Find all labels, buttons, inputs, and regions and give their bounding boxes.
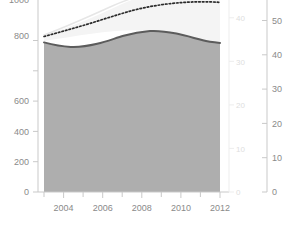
axis-left-label-800: 800	[14, 31, 29, 41]
axis-x-label-2006: 2006	[93, 203, 113, 213]
axis-left: 0 200 400 600 800 1000	[9, 0, 38, 197]
axis-right-inner: 0 10 20 30 40	[229, 0, 245, 197]
axis-right-outer: 0 10 20 30 40 50	[262, 0, 282, 197]
axis-left-label-600: 600	[14, 96, 29, 106]
axis-x-label-2008: 2008	[132, 203, 152, 213]
axis-right-inner-label-40: 40	[236, 14, 245, 23]
axis-x-label-2012: 2012	[210, 203, 230, 213]
axis-right-outer-label-30: 30	[272, 84, 282, 94]
axis-x: 2004 2006 2008 2010 2012	[38, 192, 230, 213]
axis-right-outer-label-40: 40	[272, 50, 282, 60]
axis-left-label-0: 0	[24, 187, 29, 197]
area-series-group	[44, 31, 220, 192]
axis-right-inner-label-0: 0	[236, 188, 241, 197]
axis-x-label-2004: 2004	[54, 203, 74, 213]
axis-right-outer-label-20: 20	[272, 119, 282, 129]
axis-left-label-200: 200	[14, 157, 29, 167]
axis-left-label-1000: 1000	[9, 0, 29, 5]
axis-x-label-2010: 2010	[171, 203, 191, 213]
axis-right-outer-label-50: 50	[272, 16, 282, 26]
chart-plot-svg: 0 200 400 600 800 1000 2004 2006 2008 20…	[0, 0, 299, 236]
axis-right-outer-label-0: 0	[272, 187, 277, 197]
area-series-fill	[44, 31, 220, 192]
chart-container: 0 200 400 600 800 1000 2004 2006 2008 20…	[0, 0, 299, 236]
axis-left-label-400: 400	[14, 127, 29, 137]
axis-right-inner-label-10: 10	[236, 145, 245, 154]
axis-right-outer-label-10: 10	[272, 153, 282, 163]
axis-right-inner-label-20: 20	[236, 101, 245, 110]
axis-right-inner-label-30: 30	[236, 58, 245, 67]
